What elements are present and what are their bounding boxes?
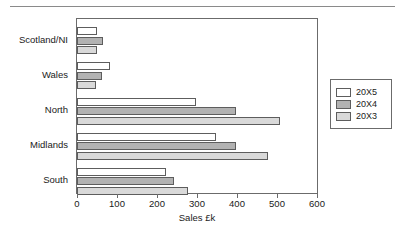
category-axis-labels: Scotland/NIWalesNorthMidlandsSouth xyxy=(0,18,72,194)
axis-tick-label: 600 xyxy=(309,198,325,209)
bar xyxy=(77,117,280,125)
legend-label: 20X4 xyxy=(356,99,377,109)
bar-group xyxy=(77,62,317,89)
bar xyxy=(77,133,216,141)
bar xyxy=(77,98,196,106)
legend-item: 20X3 xyxy=(336,111,386,121)
category-label: Midlands xyxy=(30,140,68,150)
category-label: Wales xyxy=(42,70,68,80)
axis-tick-label: 500 xyxy=(269,198,285,209)
legend-swatch-icon xyxy=(336,100,351,109)
bar-group xyxy=(77,98,317,125)
bar xyxy=(77,72,102,80)
bar xyxy=(77,37,103,45)
bar xyxy=(77,107,236,115)
bar xyxy=(77,27,97,35)
bar-group xyxy=(77,133,317,160)
legend-item: 20X5 xyxy=(336,87,386,97)
axis-tick-label: 200 xyxy=(149,198,165,209)
top-divider-rule xyxy=(10,6,395,7)
bar xyxy=(77,46,97,54)
category-label: North xyxy=(45,105,68,115)
bar xyxy=(77,152,268,160)
bar xyxy=(77,168,166,176)
bar xyxy=(77,142,236,150)
bar-group xyxy=(77,168,317,195)
legend-label: 20X3 xyxy=(356,111,377,121)
legend-swatch-icon xyxy=(336,88,351,97)
x-axis-title: Sales £k xyxy=(76,212,318,223)
axis-tick-label: 100 xyxy=(109,198,125,209)
bar xyxy=(77,81,96,89)
legend-label: 20X5 xyxy=(356,87,377,97)
legend-swatch-icon xyxy=(336,112,351,121)
legend-item: 20X4 xyxy=(336,99,386,109)
chart-legend: 20X5 20X4 20X3 xyxy=(330,79,392,129)
bar xyxy=(77,62,110,70)
category-label: South xyxy=(43,175,68,185)
axis-tick-label: 300 xyxy=(189,198,205,209)
category-label: Scotland/NI xyxy=(19,35,68,45)
bar-group xyxy=(77,27,317,54)
bars-container xyxy=(77,19,317,193)
x-axis-tick-labels: 0100200300400500600 xyxy=(76,198,318,212)
bar xyxy=(77,177,174,185)
chart-plot-frame xyxy=(76,18,318,194)
axis-tick-label: 400 xyxy=(229,198,245,209)
axis-tick-label: 0 xyxy=(74,198,79,209)
